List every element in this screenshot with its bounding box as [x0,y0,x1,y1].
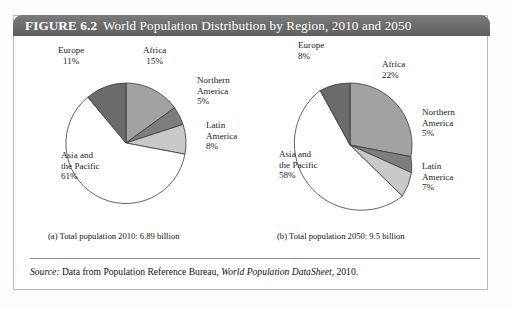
label-latin-america-name-1: Latin [206,120,225,130]
figure-title-text: FIGURE 6.2World Population Distribution … [25,19,411,32]
source-divider [30,258,480,259]
label-europe-pct: 8% [298,51,310,61]
label-northern-america: Northern America 5% [422,107,455,139]
label-asia-pacific: Asia and the Pacific 61% [61,150,100,182]
label-latin-america-pct: 7% [422,182,434,192]
label-latin-america-name-1: Latin [422,161,441,171]
charts-row: Europe 11% Africa 15% Northern America 5… [14,37,487,242]
label-africa: Africa 22% [382,59,405,80]
label-africa: Africa 15% [143,45,166,66]
source-publication: World Population DataSheet [221,266,332,277]
label-northern-america-name-2: America [422,118,453,128]
label-northern-america-name-1: Northern [422,107,455,117]
label-africa-name: Africa [382,59,405,69]
label-latin-america-name-2: America [422,172,453,182]
label-europe-name: Europe [298,40,324,50]
label-africa-pct: 15% [146,56,163,66]
pie-chart-2050: Europe 8% Africa 22% Northern America 5%… [246,37,482,242]
page-title: World Population Distribution by Region,… [103,18,411,33]
source-label: Source: [30,266,59,277]
label-latin-america: Latin America 8% [206,120,237,152]
caption-a: (a) Total population 2010: 6.89 billion [48,231,179,241]
label-europe: Europe 11% [58,45,84,66]
source-note: Source: Data from Population Reference B… [30,266,358,277]
label-asia-pacific-name-2: the Pacific [61,161,100,171]
label-asia-pacific: Asia and the Pacific 58% [279,149,318,181]
label-northern-america-name-2: America [197,86,228,96]
label-asia-pacific-name-1: Asia and [279,149,311,159]
label-asia-pacific-pct: 58% [279,170,296,180]
label-asia-pacific-name-1: Asia and [61,150,93,160]
label-europe-name: Europe [58,45,84,55]
label-europe: Europe 8% [298,40,324,61]
label-europe-pct: 11% [63,56,79,66]
label-asia-pacific-pct: 61% [61,171,78,181]
label-northern-america-name-1: Northern [197,75,230,85]
figure-title-banner: FIGURE 6.2World Population Distribution … [13,15,490,36]
label-latin-america-pct: 8% [206,141,218,151]
caption-b: (b) Total population 2050: 9.5 billion [277,231,405,241]
label-africa-name: Africa [143,45,166,55]
source-year: , 2010. [332,266,358,277]
pie-2050-svg [246,37,482,242]
label-asia-pacific-name-2: the Pacific [279,160,318,170]
figure-page: FIGURE 6.2World Population Distribution … [0,0,513,309]
label-africa-pct: 22% [382,70,399,80]
label-northern-america: Northern America 5% [197,75,230,107]
label-latin-america: Latin America 7% [422,161,453,193]
figure-number: FIGURE 6.2 [25,18,97,33]
label-latin-america-name-2: America [206,131,237,141]
slice-africa [350,83,412,157]
label-northern-america-pct: 5% [422,128,434,138]
pie-chart-2010: Europe 11% Africa 15% Northern America 5… [18,37,254,242]
source-body: Data from Population Reference Bureau, [59,266,221,277]
label-northern-america-pct: 5% [197,96,209,106]
